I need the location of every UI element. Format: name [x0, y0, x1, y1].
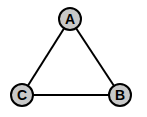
node-c: C [11, 84, 33, 106]
edge-c-a [22, 19, 70, 95]
node-a: A [59, 8, 81, 30]
graph-canvas: A B C [0, 0, 147, 117]
node-a-label: A [65, 11, 75, 27]
graph-diagram: A B C [0, 0, 147, 117]
edge-a-b [70, 19, 120, 95]
node-c-label: C [17, 87, 27, 103]
node-b-label: B [115, 87, 125, 103]
node-b: B [109, 84, 131, 106]
